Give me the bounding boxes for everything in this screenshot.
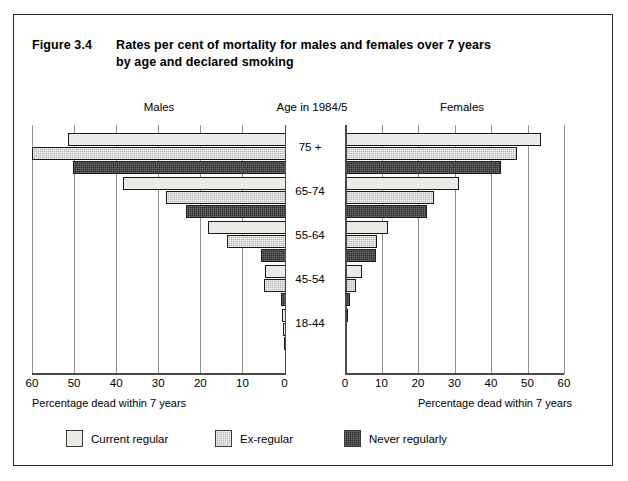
x-axis-title-males: Percentage dead within 7 years (32, 397, 186, 409)
bar-males-never-regularly (186, 205, 286, 218)
age-label-4: 18-44 (250, 317, 370, 329)
age-group-3 (345, 265, 564, 309)
bar-females-current-regular (345, 133, 541, 146)
x-axis-females (345, 373, 564, 375)
x-axis-males (32, 373, 286, 375)
figure-title-block: Figure 3.4 Rates per cent of mortality f… (32, 37, 592, 71)
x-tick-label: 0 (281, 377, 287, 389)
bar-males-ex-regular (32, 147, 286, 160)
age-group-1 (32, 177, 286, 221)
page-title: Rates per cent of mortality for males an… (116, 37, 491, 71)
age-group-0 (345, 133, 564, 177)
figure-card: Figure 3.4 Rates per cent of mortality f… (13, 14, 613, 466)
x-tick-label: 30 (152, 377, 165, 389)
x-tick-label: 50 (521, 377, 534, 389)
panel-header-females: Females (407, 101, 517, 113)
x-tick-label: 30 (448, 377, 461, 389)
x-tick-label: 0 (342, 377, 348, 389)
age-group-3 (32, 265, 286, 309)
bar-females-never-regularly (345, 249, 376, 262)
chart-legend: Current regular Ex-regular Never regular… (14, 430, 614, 456)
figure-title-line-1: Rates per cent of mortality for males an… (116, 37, 491, 54)
x-tick-label: 20 (412, 377, 425, 389)
zero-axis-females (345, 125, 347, 374)
age-label-3: 45-54 (250, 273, 370, 285)
x-tick-label: 60 (558, 377, 571, 389)
x-tick-label: 40 (110, 377, 123, 389)
age-group-2 (32, 221, 286, 265)
x-tick-label: 20 (194, 377, 207, 389)
x-tick-label: 60 (26, 377, 39, 389)
chart-plot-area: Males Age in 1984/5 Females 605040302010… (14, 101, 614, 391)
age-label-0: 75 + (250, 141, 370, 153)
panel-header-age: Age in 1984/5 (247, 101, 377, 113)
legend-label-never-regularly: Never regularly (369, 433, 447, 445)
legend-label-current-regular: Current regular (91, 433, 168, 445)
bar-females-ex-regular (345, 147, 517, 160)
legend-item-current-regular: Current regular (66, 430, 168, 447)
x-tick-label: 40 (485, 377, 498, 389)
legend-item-ex-regular: Ex-regular (215, 430, 293, 447)
age-group-4 (32, 309, 286, 353)
legend-label-ex-regular: Ex-regular (240, 433, 293, 445)
bars-panel-females (345, 125, 564, 373)
x-tick-label: 10 (236, 377, 249, 389)
legend-swatch-icon-current-regular (66, 430, 83, 447)
age-group-0 (32, 133, 286, 177)
x-axis-title-females: Percentage dead within 7 years (418, 397, 572, 409)
gridline-tick (564, 125, 565, 374)
legend-item-never-regularly: Never regularly (344, 430, 447, 447)
figure-title-line-2: by age and declared smoking (116, 54, 491, 71)
bar-males-never-regularly (73, 161, 286, 174)
figure-number: Figure 3.4 (32, 37, 116, 54)
zero-axis-males (285, 125, 287, 374)
bar-males-never-regularly (261, 249, 286, 262)
age-group-4 (345, 309, 564, 353)
age-group-2 (345, 221, 564, 265)
bars-panel-males (32, 125, 286, 373)
panel-header-males: Males (104, 101, 214, 113)
x-tick-label: 50 (68, 377, 81, 389)
x-tick-label: 10 (375, 377, 388, 389)
legend-swatch-icon-never-regularly (344, 430, 361, 447)
bar-females-never-regularly (345, 205, 427, 218)
age-group-1 (345, 177, 564, 221)
legend-swatch-icon-ex-regular (215, 430, 232, 447)
age-label-1: 65-74 (250, 185, 370, 197)
bar-females-never-regularly (345, 161, 501, 174)
age-label-2: 55-64 (250, 229, 370, 241)
